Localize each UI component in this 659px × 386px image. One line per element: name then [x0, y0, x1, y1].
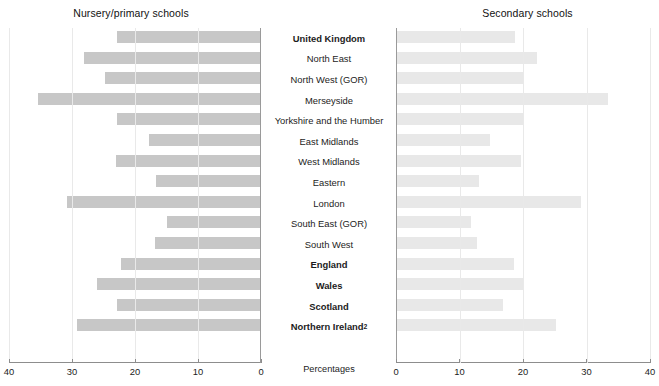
- category-label: North West (GOR): [262, 69, 396, 90]
- axis-tick-mark: [523, 359, 524, 363]
- axis-tick-mark: [650, 359, 651, 363]
- category-label: West Midlands: [262, 152, 396, 173]
- bar: [77, 319, 261, 331]
- tick-label: 20: [518, 366, 528, 377]
- tick-label: 30: [581, 366, 591, 377]
- axis-tick-mark: [135, 359, 136, 363]
- category-label: South East (GOR): [262, 213, 396, 234]
- tick-label: 40: [645, 366, 655, 377]
- right-tick-labels: 010203040: [396, 366, 650, 380]
- category-label: Eastern: [262, 172, 396, 193]
- left-panel-title: Nursery/primary schools: [0, 7, 262, 19]
- bar: [396, 237, 477, 249]
- category-label: United Kingdom: [262, 28, 396, 49]
- category-label: Merseyside: [262, 90, 396, 111]
- gridline: [198, 28, 199, 363]
- left-tick-labels: 403020100: [9, 366, 261, 380]
- gridline: [460, 28, 461, 363]
- bar: [396, 93, 608, 105]
- bar: [396, 196, 581, 208]
- category-label: North East: [262, 49, 396, 70]
- category-label: London: [262, 193, 396, 214]
- bar: [121, 258, 261, 270]
- tick-label: 0: [393, 366, 398, 377]
- bar: [116, 155, 261, 167]
- bar: [156, 175, 261, 187]
- category-label: South West: [262, 234, 396, 255]
- bar: [396, 258, 514, 270]
- zero-baseline: [396, 28, 397, 363]
- axis-unit-label: Percentages: [262, 364, 396, 374]
- tick-label: 20: [130, 366, 140, 377]
- gridline: [9, 28, 10, 363]
- bar: [396, 175, 479, 187]
- bar: [396, 31, 515, 43]
- right-panel-title: Secondary schools: [396, 7, 659, 19]
- tick-label: 0: [258, 366, 263, 377]
- bar: [117, 113, 261, 125]
- category-label: England: [262, 255, 396, 276]
- bar: [155, 237, 261, 249]
- category-label: East Midlands: [262, 131, 396, 152]
- gridline: [587, 28, 588, 363]
- category-label: Yorkshire and the Humber: [262, 110, 396, 131]
- chart-figure: Nursery/primary schools Secondary school…: [0, 0, 659, 386]
- category-label-column: United KingdomNorth EastNorth West (GOR)…: [262, 28, 396, 383]
- bar: [117, 299, 261, 311]
- category-label: Scotland: [262, 296, 396, 317]
- tick-label: 10: [454, 366, 464, 377]
- bar: [396, 134, 490, 146]
- axis-tick-mark: [586, 359, 587, 363]
- gridline: [72, 28, 73, 363]
- category-label: Wales: [262, 275, 396, 296]
- tick-label: 10: [193, 366, 203, 377]
- category-label: Northern Ireland2: [262, 316, 396, 337]
- bar: [105, 72, 261, 84]
- bar: [167, 216, 261, 228]
- gridline: [523, 28, 524, 363]
- bar: [67, 196, 261, 208]
- axis-tick-mark: [9, 359, 10, 363]
- gridline: [135, 28, 136, 363]
- left-plot-area: [9, 28, 261, 363]
- footnote-marker: 2: [364, 323, 368, 330]
- bar: [396, 52, 537, 64]
- axis-tick-mark: [459, 359, 460, 363]
- zero-baseline: [260, 28, 261, 363]
- bar: [149, 134, 261, 146]
- right-plot-area: [396, 28, 650, 363]
- tick-label: 40: [4, 366, 14, 377]
- axis-tick-mark: [72, 359, 73, 363]
- tick-label: 30: [67, 366, 77, 377]
- bar: [396, 299, 503, 311]
- bar: [396, 319, 556, 331]
- gridline: [650, 28, 651, 363]
- bar: [84, 52, 261, 64]
- axis-tick-mark: [198, 359, 199, 363]
- bar: [117, 31, 261, 43]
- bar: [97, 278, 261, 290]
